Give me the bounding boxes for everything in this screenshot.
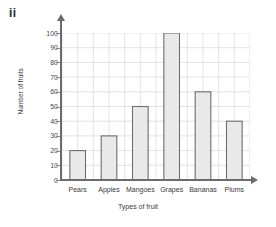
- y-axis-tick-mark: [56, 165, 60, 166]
- y-axis-arrow-icon: [57, 14, 65, 21]
- bar: [101, 136, 117, 180]
- y-axis-title: Number of fruits: [18, 51, 25, 131]
- x-axis-title: Types of fruit: [0, 203, 276, 210]
- y-axis-tick-label: 30: [38, 132, 58, 139]
- x-axis-line: [60, 179, 252, 181]
- y-axis-tick-mark: [56, 62, 60, 63]
- y-axis-tick-label: 10: [38, 162, 58, 169]
- y-axis-tick-label: 0: [38, 177, 58, 184]
- bar: [227, 121, 243, 180]
- plot-area: [62, 33, 250, 180]
- y-axis-tick-label: 100: [38, 30, 58, 37]
- y-axis-tick-mark: [56, 121, 60, 122]
- y-axis-tick-mark: [56, 92, 60, 93]
- y-axis-tick-mark: [56, 107, 60, 108]
- x-axis-tick-label: Grapes: [160, 186, 183, 193]
- x-axis-tick-label: Plums: [225, 186, 244, 193]
- y-axis-tick-mark: [56, 48, 60, 49]
- bar: [70, 151, 86, 180]
- bars-group: [62, 33, 250, 180]
- y-axis-tick-mark: [56, 180, 60, 181]
- x-axis-tick-label: Pears: [69, 186, 87, 193]
- y-axis-tick-label: 40: [38, 118, 58, 125]
- y-axis-tick-label: 20: [38, 147, 58, 154]
- figure-label: ii: [9, 7, 17, 19]
- bar: [195, 92, 211, 180]
- x-axis-tick-label: Bananas: [189, 186, 217, 193]
- y-axis-tick-label: 80: [38, 59, 58, 66]
- y-axis-tick-label: 60: [38, 88, 58, 95]
- x-axis-tick-labels: PearsApplesMangoesGrapesBananasPlums: [62, 186, 252, 198]
- x-axis-arrow-icon: [251, 176, 258, 184]
- x-axis-tick-label: Apples: [98, 186, 119, 193]
- y-axis-tick-labels: 0102030405060708090100: [34, 0, 58, 227]
- y-axis-tick-label: 90: [38, 44, 58, 51]
- y-axis-tick-mark: [56, 77, 60, 78]
- y-axis-tick-mark: [56, 136, 60, 137]
- y-axis-tick-label: 50: [38, 103, 58, 110]
- x-axis-tick-label: Mangoes: [126, 186, 155, 193]
- bar-chart-figure: ii 0102030405060708090100 Number of frui…: [0, 0, 276, 227]
- y-axis-tick-mark: [56, 33, 60, 34]
- y-axis-tick-mark: [56, 151, 60, 152]
- bar: [133, 107, 149, 181]
- bar: [164, 33, 180, 180]
- y-axis-tick-label: 70: [38, 74, 58, 81]
